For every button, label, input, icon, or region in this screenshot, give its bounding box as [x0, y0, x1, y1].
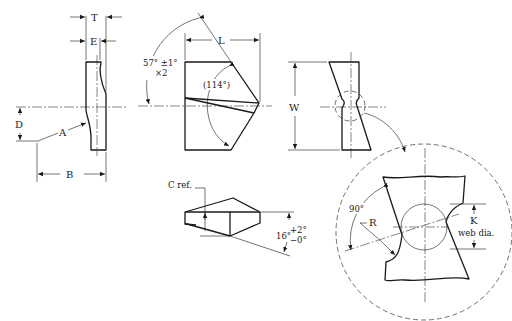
technical-drawing: T E D A B L 57°: [0, 0, 512, 321]
point-angle-label: 57° ±1°: [143, 58, 178, 68]
dim-T-label: T: [91, 12, 98, 23]
dim-A-label: A: [58, 127, 67, 138]
clearance-angle-label: 16°: [276, 231, 291, 241]
end-view: W: [288, 52, 405, 158]
dim-L-label: L: [218, 35, 225, 46]
detail-view-web: K web dia. R 90°: [336, 144, 512, 320]
dim-R-label: R: [369, 217, 377, 228]
bottom-view: C ref. 16° +2° −0°: [168, 180, 307, 256]
point-angle-mult-label: ×2: [155, 68, 168, 78]
dim-K-label: K: [470, 215, 478, 226]
clearance-tol-plus: +2°: [290, 225, 307, 235]
detail-angle-label: 90°: [349, 204, 364, 214]
side-view: T E D A B: [15, 12, 128, 182]
included-angle-label: (114°): [203, 80, 230, 90]
dim-B-label: B: [66, 169, 73, 180]
web-dia-label: web dia.: [458, 228, 494, 238]
clearance-tol-minus: −0°: [290, 235, 307, 245]
front-view: L 57° ±1° ×2 (114°): [138, 13, 272, 150]
dim-D-label: D: [15, 119, 23, 130]
dim-E-label: E: [90, 36, 97, 47]
c-ref-label: C ref.: [168, 180, 192, 190]
dim-W-label: W: [289, 102, 300, 113]
